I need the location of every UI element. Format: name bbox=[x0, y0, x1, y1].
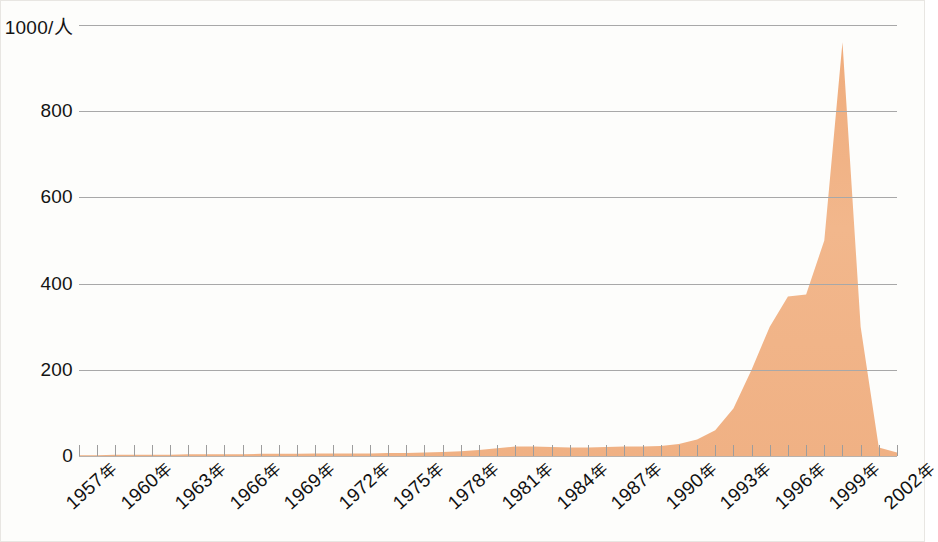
x-tick-1999 bbox=[842, 445, 843, 456]
x-tick-1963 bbox=[188, 445, 189, 456]
y-tick-label-200: 200 bbox=[40, 359, 73, 381]
x-tick-label-2002: 2002年 bbox=[878, 456, 938, 514]
x-tick-1981 bbox=[515, 445, 516, 456]
x-tick-1985 bbox=[588, 445, 589, 456]
gridline-600 bbox=[79, 197, 897, 198]
area-path bbox=[79, 42, 897, 456]
x-tick-1971 bbox=[333, 445, 334, 456]
x-tick-1960 bbox=[134, 445, 135, 456]
y-tick-label-1000: 1000/人 bbox=[5, 12, 73, 39]
x-tick-1968 bbox=[279, 445, 280, 456]
gridline-400 bbox=[79, 284, 897, 285]
x-tick-label-1984: 1984年 bbox=[551, 456, 612, 514]
x-tick-1970 bbox=[315, 445, 316, 456]
x-tick-1991 bbox=[697, 445, 698, 456]
x-tick-2002 bbox=[897, 445, 898, 456]
x-tick-1976 bbox=[424, 445, 425, 456]
x-tick-label-1969: 1969年 bbox=[278, 456, 339, 514]
x-tick-1975 bbox=[406, 445, 407, 456]
x-tick-1958 bbox=[97, 445, 98, 456]
x-tick-1974 bbox=[388, 445, 389, 456]
x-tick-1962 bbox=[170, 445, 171, 456]
x-tick-1957 bbox=[79, 445, 80, 456]
x-tick-1961 bbox=[152, 445, 153, 456]
plot-area bbox=[79, 25, 897, 456]
x-tick-2001 bbox=[879, 445, 880, 456]
x-tick-1988 bbox=[643, 445, 644, 456]
y-tick-label-400: 400 bbox=[40, 273, 73, 295]
x-tick-1966 bbox=[243, 445, 244, 456]
x-tick-label-1990: 1990年 bbox=[660, 456, 721, 514]
x-tick-label-1966: 1966年 bbox=[224, 456, 285, 514]
x-tick-1987 bbox=[624, 445, 625, 456]
x-tick-1969 bbox=[297, 445, 298, 456]
x-tick-label-1975: 1975年 bbox=[387, 456, 448, 514]
gridline-1000 bbox=[79, 25, 897, 26]
x-tick-1998 bbox=[824, 445, 825, 456]
x-tick-1978 bbox=[461, 445, 462, 456]
x-tick-1995 bbox=[770, 445, 771, 456]
x-tick-label-1978: 1978年 bbox=[442, 456, 503, 514]
x-tick-1994 bbox=[752, 445, 753, 456]
x-tick-2000 bbox=[861, 445, 862, 456]
x-tick-1973 bbox=[370, 445, 371, 456]
x-tick-1972 bbox=[352, 445, 353, 456]
x-tick-label-1996: 1996年 bbox=[769, 456, 830, 514]
x-tick-1964 bbox=[206, 445, 207, 456]
x-tick-1990 bbox=[679, 445, 680, 456]
x-tick-1986 bbox=[606, 445, 607, 456]
x-tick-1979 bbox=[479, 445, 480, 456]
x-tick-label-1981: 1981年 bbox=[496, 456, 557, 514]
x-tick-1980 bbox=[497, 445, 498, 456]
x-tick-label-1972: 1972年 bbox=[333, 456, 394, 514]
x-tick-1984 bbox=[570, 445, 571, 456]
y-tick-label-800: 800 bbox=[40, 100, 73, 122]
x-tick-1967 bbox=[261, 445, 262, 456]
x-tick-1965 bbox=[224, 445, 225, 456]
x-tick-1977 bbox=[443, 445, 444, 456]
x-tick-1959 bbox=[115, 445, 116, 456]
x-tick-1996 bbox=[788, 445, 789, 456]
x-tick-1992 bbox=[715, 445, 716, 456]
x-tick-1989 bbox=[661, 445, 662, 456]
x-tick-label-1987: 1987年 bbox=[606, 456, 667, 514]
x-tick-1997 bbox=[806, 445, 807, 456]
x-tick-1982 bbox=[533, 445, 534, 456]
x-axis-labels: 1957年1960年1963年1966年1969年1972年1975年1978年… bbox=[1, 456, 926, 542]
x-tick-label-1993: 1993年 bbox=[715, 456, 776, 514]
area-series bbox=[79, 25, 897, 456]
x-tick-1993 bbox=[733, 445, 734, 456]
gridline-200 bbox=[79, 370, 897, 371]
x-tick-label-1957: 1957年 bbox=[60, 456, 121, 514]
y-axis-labels: 02004006008001000/人 bbox=[1, 25, 73, 456]
gridline-800 bbox=[79, 111, 897, 112]
x-tick-label-1960: 1960年 bbox=[115, 456, 176, 514]
x-tick-label-1999: 1999年 bbox=[824, 456, 885, 514]
x-tick-label-1963: 1963年 bbox=[169, 456, 230, 514]
x-tick-1983 bbox=[552, 445, 553, 456]
x-axis-ticks bbox=[79, 445, 897, 456]
y-tick-label-600: 600 bbox=[40, 186, 73, 208]
